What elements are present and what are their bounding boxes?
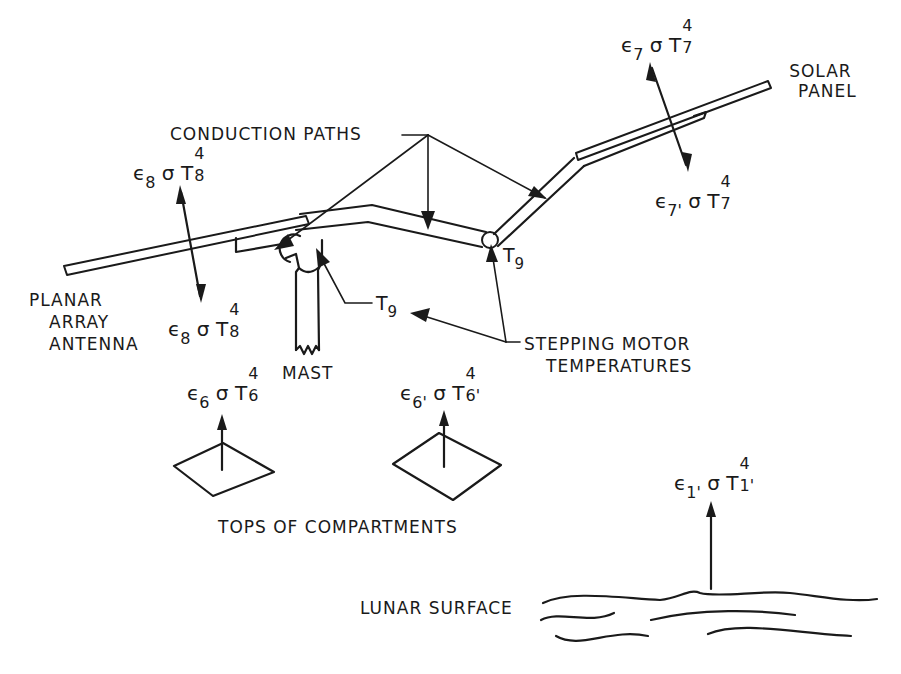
t-sub: 8	[229, 324, 239, 340]
t9-sub: 9	[388, 303, 398, 321]
arrow-down-icon	[682, 152, 692, 172]
compartment-6prime	[393, 410, 501, 500]
epsilon-symbol: ϵ	[655, 189, 667, 213]
t-sub: 6	[248, 388, 258, 404]
stepping-motor-joint	[482, 232, 498, 248]
epsilon-symbol: ϵ	[187, 381, 199, 405]
t-symbol: T	[235, 381, 247, 405]
t9-mid-label: T9	[376, 292, 397, 314]
t-symbol: T	[216, 317, 228, 341]
t-symbol: T	[707, 189, 719, 213]
exponent: 4	[740, 456, 750, 472]
t-sub: 7	[721, 196, 731, 212]
antenna-label-line1: PLANAR	[29, 289, 139, 311]
epsilon-symbol: ϵ	[133, 161, 145, 185]
eq-solar-panel-top: ϵ7 σ T47	[621, 32, 695, 55]
eps-sub: 7	[633, 45, 643, 64]
solar-panel-label: SOLAR PANEL	[784, 62, 857, 101]
arrow-up-icon	[176, 185, 186, 204]
t-sub: 8	[194, 168, 204, 184]
solar-panel-label-line1: SOLAR	[784, 62, 857, 82]
exponent: 4	[682, 18, 692, 34]
solar-panel-shape	[576, 81, 771, 166]
antenna-label-line3: ANTENNA	[49, 333, 139, 355]
sigma-symbol: σ	[216, 381, 229, 405]
epsilon-symbol: ϵ	[400, 381, 412, 405]
exponent: 4	[466, 366, 476, 382]
stepping-motor-label: STEPPING MOTOR TEMPERATURES	[524, 333, 692, 377]
eq-lunar-surface: ϵ1' σ T41'	[674, 470, 753, 493]
t9-base: T	[376, 292, 388, 314]
t9-base: T	[503, 244, 515, 266]
sigma-symbol: σ	[162, 161, 175, 185]
eq-compartment-6: ϵ6 σ T46	[187, 380, 261, 403]
stepping-motor-leaders	[316, 244, 520, 342]
solar-arm	[494, 158, 584, 246]
t9-right-label: T9	[503, 244, 524, 266]
conduction-paths-label: CONDUCTION PATHS	[170, 125, 362, 145]
sigma-symbol: σ	[197, 317, 210, 341]
eps-sub: 8	[145, 173, 155, 192]
arrow-down-icon	[196, 284, 206, 303]
eps-sub: 7'	[667, 201, 682, 220]
antenna-label-line2: ARRAY	[49, 311, 139, 333]
epsilon-symbol: ϵ	[674, 471, 686, 495]
eq-solar-panel-bottom: ϵ7' σ T47	[655, 188, 734, 211]
compartment-6	[174, 414, 274, 496]
eq-compartment-6prime: ϵ6' σ T46'	[400, 380, 479, 403]
stepping-motor-label-line1: STEPPING MOTOR	[524, 333, 692, 355]
stepping-motor-label-line2: TEMPERATURES	[546, 355, 692, 377]
conduction-path-leaders	[274, 135, 547, 250]
epsilon-symbol: ϵ	[168, 317, 180, 341]
mast-shape	[280, 234, 322, 354]
exponent: 4	[194, 146, 204, 162]
eps-sub: 8	[180, 329, 190, 348]
sigma-symbol: σ	[707, 471, 720, 495]
eps-sub: 1'	[686, 483, 701, 502]
t-symbol: T	[452, 381, 464, 405]
epsilon-symbol: ϵ	[621, 33, 633, 57]
lunar-surface-shape	[541, 501, 877, 641]
tops-of-compartments-label: TOPS OF COMPARTMENTS	[218, 518, 458, 538]
exponent: 4	[721, 174, 731, 190]
t-symbol: T	[181, 161, 193, 185]
t9-sub: 9	[515, 255, 525, 273]
arrow-up-icon	[217, 414, 227, 430]
t-sub: 1'	[740, 478, 755, 494]
exponent: 4	[248, 366, 258, 382]
t-sub: 7	[682, 40, 692, 56]
arrow-up-icon	[439, 410, 449, 426]
mast-label: MAST	[282, 364, 333, 384]
arrow-up-icon	[706, 501, 716, 517]
exponent: 4	[229, 302, 239, 318]
sigma-symbol: σ	[433, 381, 446, 405]
eq-antenna-bottom: ϵ8 σ T48	[168, 316, 242, 339]
t-sub: 6'	[466, 388, 481, 404]
sigma-symbol: σ	[688, 189, 701, 213]
boom-arm	[296, 205, 486, 247]
eps-sub: 6'	[412, 393, 427, 412]
planar-array-antenna-label: PLANAR ARRAY ANTENNA	[29, 289, 139, 355]
lunar-surface-label: LUNAR SURFACE	[360, 599, 513, 619]
solar-panel-label-line2: PANEL	[798, 82, 857, 102]
eq-antenna-top: ϵ8 σ T48	[133, 160, 207, 183]
eps-sub: 6	[199, 393, 209, 412]
t-symbol: T	[669, 33, 681, 57]
t-symbol: T	[726, 471, 738, 495]
sigma-symbol: σ	[650, 33, 663, 57]
